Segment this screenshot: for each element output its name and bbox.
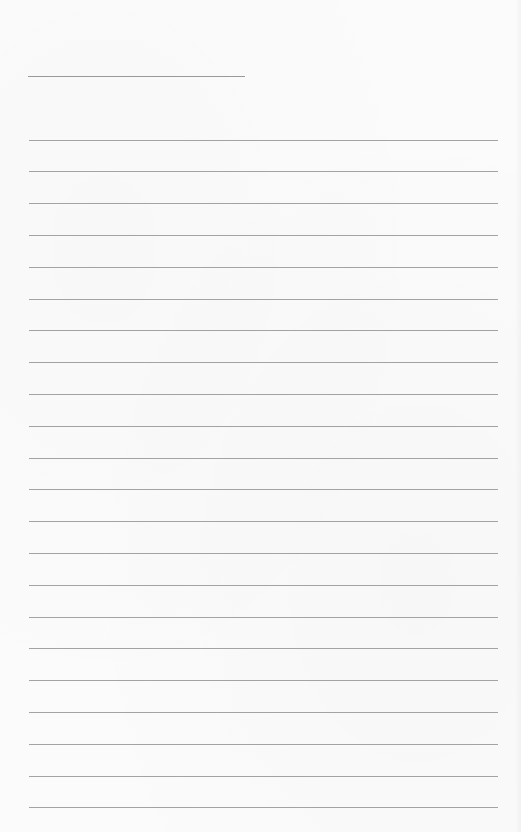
ruled-line	[29, 744, 498, 745]
ruled-line	[29, 648, 498, 649]
header-write-line	[28, 76, 245, 77]
ruled-line	[29, 521, 498, 522]
ruled-line	[29, 299, 498, 300]
ruled-line	[29, 267, 498, 268]
ruled-line	[29, 776, 498, 777]
ruled-line	[29, 362, 498, 363]
ruled-line	[29, 553, 498, 554]
ruled-line	[29, 140, 498, 141]
ruled-line	[29, 330, 498, 331]
page-edge-shadow	[515, 0, 521, 832]
ruled-line	[29, 807, 498, 808]
ruled-line	[29, 203, 498, 204]
ruled-line	[29, 617, 498, 618]
ruled-line	[29, 458, 498, 459]
ruled-line	[29, 394, 498, 395]
lined-paper-page	[0, 0, 521, 832]
ruled-line	[29, 489, 498, 490]
ruled-line	[29, 680, 498, 681]
ruled-line	[29, 712, 498, 713]
ruled-line	[29, 426, 498, 427]
ruled-line	[29, 585, 498, 586]
ruled-line	[29, 171, 498, 172]
ruled-line	[29, 235, 498, 236]
